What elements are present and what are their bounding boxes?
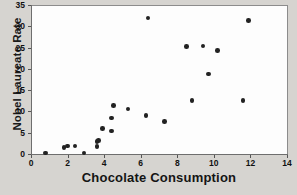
data-point	[100, 126, 105, 131]
x-tick-label: 4	[92, 158, 116, 168]
data-point	[96, 138, 101, 143]
scatter-chart: Nobel Laureate Rate 05101520253035 02468…	[0, 0, 297, 195]
y-tick-label: 5	[0, 128, 25, 138]
x-tick-label: 10	[202, 158, 226, 168]
y-tick-label: 25	[0, 43, 25, 53]
data-point	[111, 103, 116, 108]
data-point	[109, 129, 114, 134]
x-tick-label: 12	[238, 158, 262, 168]
y-tick-mark	[28, 90, 31, 91]
y-tick-mark	[28, 69, 31, 70]
x-tick-label: 8	[165, 158, 189, 168]
data-point	[184, 44, 189, 49]
x-tick-label: 6	[129, 158, 153, 168]
data-point	[215, 48, 220, 53]
y-tick-label: 35	[0, 0, 25, 10]
y-tick-label: 20	[0, 64, 25, 74]
y-tick-mark	[28, 48, 31, 49]
x-tick-label: 14	[275, 158, 297, 168]
data-point	[65, 144, 70, 149]
x-tick-label: 0	[19, 158, 43, 168]
y-tick-label: 15	[0, 85, 25, 95]
y-tick-mark	[28, 133, 31, 134]
data-point	[241, 98, 246, 103]
y-tick-label: 30	[0, 21, 25, 31]
y-axis-line	[31, 5, 32, 155]
y-tick-mark	[28, 26, 31, 27]
data-point	[246, 18, 251, 23]
plot-area	[31, 5, 288, 155]
data-point	[190, 98, 195, 103]
y-tick-mark	[28, 111, 31, 112]
data-point	[162, 119, 167, 124]
data-point	[206, 72, 211, 77]
data-point	[109, 116, 114, 121]
x-axis-title: Chocolate Consumption	[31, 170, 287, 185]
y-tick-label: 10	[0, 106, 25, 116]
x-tick-label: 2	[56, 158, 80, 168]
data-point	[95, 144, 100, 149]
y-tick-mark	[28, 5, 31, 6]
